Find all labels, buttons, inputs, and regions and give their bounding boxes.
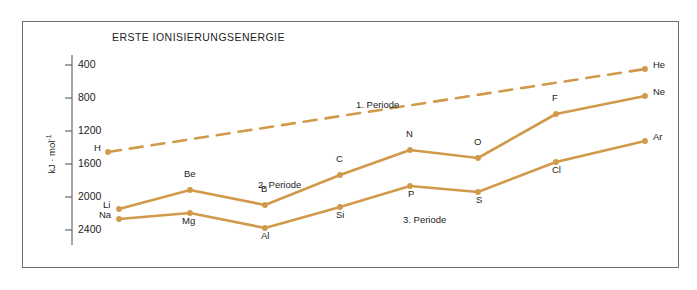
data-point-marker <box>407 147 413 153</box>
data-point-label: Cl <box>552 164 561 175</box>
series-line-1 <box>108 69 645 152</box>
data-point-label: Ne <box>653 86 665 97</box>
data-point-marker <box>262 202 268 208</box>
y-axis-title-exponent: -1 <box>45 134 52 140</box>
data-point-marker <box>337 172 343 178</box>
series-line-2 <box>119 96 645 209</box>
data-point-marker <box>475 155 481 161</box>
data-point-label: Be <box>184 168 196 179</box>
data-point-marker <box>553 111 559 117</box>
data-point-marker <box>116 206 122 212</box>
chart-plot-area <box>0 0 697 290</box>
data-point-label: S <box>476 194 482 205</box>
ionization-energy-figure: ERSTE IONISIERUNGSENERGIE kJ · mol-1 400… <box>0 0 697 290</box>
series-annotation: 1. Periode <box>356 99 399 110</box>
y-tick-label: 1200 <box>78 124 101 136</box>
data-point-label: P <box>408 188 414 199</box>
y-tick-label: 400 <box>78 58 96 70</box>
y-tick-label: 800 <box>78 91 96 103</box>
series-annotation: 3. Periode <box>403 214 446 225</box>
y-axis <box>65 55 72 245</box>
data-point-label: Mg <box>182 215 195 226</box>
data-point-label: H <box>94 142 101 153</box>
series-annotation: 2. Periode <box>258 179 301 190</box>
y-tick-label: 2400 <box>78 223 101 235</box>
y-axis-title: kJ · mol-1 <box>45 99 57 209</box>
y-tick-label: 1600 <box>78 157 101 169</box>
data-point-marker <box>642 93 648 99</box>
data-point-marker <box>642 138 648 144</box>
data-point-label: Ar <box>653 131 663 142</box>
data-point-label: N <box>406 128 413 139</box>
series-line-3 <box>119 141 645 228</box>
data-point-label: O <box>474 136 481 147</box>
chart-title: ERSTE IONISIERUNGSENERGIE <box>112 31 285 43</box>
data-point-label: F <box>552 92 558 103</box>
data-point-label: Si <box>336 209 344 220</box>
y-axis-title-text: kJ · mol <box>46 141 57 174</box>
data-point-marker <box>105 149 111 155</box>
data-point-marker <box>116 216 122 222</box>
data-point-label: Al <box>261 230 269 241</box>
data-series-group <box>105 66 648 231</box>
data-point-marker <box>642 66 648 72</box>
data-point-label: C <box>336 153 343 164</box>
data-point-marker <box>187 187 193 193</box>
y-tick-label: 2000 <box>78 190 101 202</box>
data-point-label: He <box>653 59 665 70</box>
data-point-label: Na <box>99 209 111 220</box>
